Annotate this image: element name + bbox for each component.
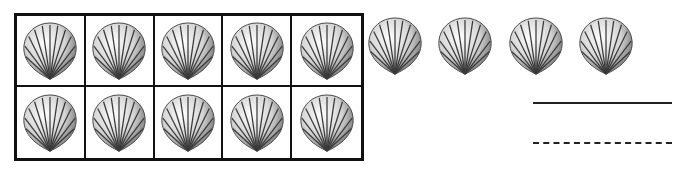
shell-icon <box>298 21 356 81</box>
shell-icon <box>21 21 79 81</box>
extra-shell-icon <box>577 16 635 76</box>
ten-frame-cell <box>223 87 292 158</box>
ten-frame-cell <box>292 87 361 158</box>
extra-shell-icon <box>436 16 494 76</box>
shell-icon <box>90 93 148 153</box>
ten-frame-cell <box>17 16 86 87</box>
ten-frame-cell <box>155 16 224 87</box>
shell-icon <box>90 21 148 81</box>
answer-line-dashed[interactable] <box>533 142 672 144</box>
shell-icon <box>159 93 217 153</box>
ten-frame-cell <box>292 16 361 87</box>
shell-icon <box>228 21 286 81</box>
shell-icon <box>159 21 217 81</box>
shell-icon <box>21 93 79 153</box>
ten-frame-cell <box>86 87 155 158</box>
answer-line-solid[interactable] <box>533 102 672 104</box>
extra-shell-icon <box>366 16 424 76</box>
ten-frame-cell <box>17 87 86 158</box>
ten-frame-cell <box>223 16 292 87</box>
ten-frame-cell <box>86 16 155 87</box>
shell-icon <box>228 93 286 153</box>
extra-shell-icon <box>507 16 565 76</box>
ten-frame-cell <box>155 87 224 158</box>
ten-frame <box>14 13 364 161</box>
shell-icon <box>298 93 356 153</box>
